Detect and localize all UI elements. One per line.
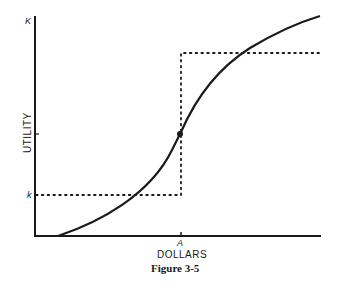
x-tick-label-a: A bbox=[176, 238, 183, 248]
utility-curve bbox=[58, 16, 320, 236]
figure-caption: Figure 3-5 bbox=[151, 262, 200, 274]
inflection-point bbox=[177, 131, 183, 137]
utility-diagram: K k A UTILITY DOLLARS Figure 3-5 bbox=[0, 0, 344, 290]
y-axis-label: UTILITY bbox=[22, 112, 33, 153]
step-function-dotted bbox=[36, 53, 320, 195]
y-tick-label-upper-k: K bbox=[25, 16, 32, 26]
x-axis-label: DOLLARS bbox=[157, 249, 207, 260]
y-tick-label-lower-k: k bbox=[27, 190, 32, 200]
